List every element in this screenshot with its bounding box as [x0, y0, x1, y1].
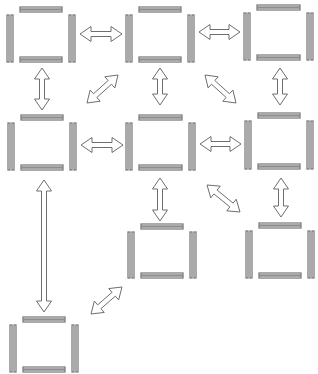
double-arrow-icon: [153, 178, 168, 221]
node-top-edge: [21, 118, 63, 120]
double-arrow-icon: [207, 185, 240, 212]
node-n8: [246, 223, 314, 278]
double-arrow-icon: [205, 75, 236, 103]
node-bottom-edge: [259, 276, 301, 278]
node-n7: [128, 224, 196, 278]
node-left-edge: [250, 231, 252, 278]
double-arrow-icon: [87, 75, 118, 103]
node-left-edge: [12, 123, 14, 170]
node-bottom-edge: [139, 57, 181, 59]
node-n3: [244, 5, 313, 60]
node-n5: [126, 115, 195, 170]
node-top-edge: [139, 10, 181, 12]
node-left-edge: [249, 121, 251, 169]
node-n1: [7, 7, 75, 62]
double-arrow-icon: [35, 68, 50, 110]
node-top-edge: [23, 320, 65, 322]
node-n9: [10, 317, 78, 372]
double-arrow-icon: [91, 287, 122, 314]
node-left-edge: [126, 123, 128, 170]
node-bottom-edge: [257, 55, 300, 57]
node-bottom-edge: [20, 60, 62, 62]
node-top-edge: [21, 115, 63, 117]
node-top-edge: [257, 8, 300, 10]
node-bottom-edge: [23, 367, 65, 369]
node-left-edge: [14, 325, 16, 372]
node-left-edge: [245, 121, 247, 169]
node-top-edge: [259, 226, 301, 228]
node-right-edge: [69, 15, 71, 62]
node-top-edge: [23, 317, 65, 319]
node-left-edge: [7, 15, 9, 62]
node-top-edge: [20, 7, 62, 9]
double-arrow-icon: [80, 27, 122, 42]
node-bottom-edge: [259, 273, 301, 275]
node-bottom-edge: [141, 273, 183, 275]
node-left-edge: [128, 232, 130, 278]
node-right-edge: [307, 121, 309, 169]
node-top-edge: [258, 116, 300, 118]
node-left-edge: [8, 123, 10, 170]
node-left-edge: [130, 15, 132, 62]
node-top-edge: [259, 223, 301, 225]
node-left-edge: [11, 15, 13, 62]
node-right-edge: [193, 123, 195, 170]
node-right-edge: [188, 15, 190, 62]
double-arrow-icon: [274, 178, 289, 217]
node-top-edge: [141, 227, 183, 229]
node-bottom-edge: [20, 57, 62, 59]
network-diagram: [0, 0, 318, 374]
node-right-edge: [312, 231, 314, 278]
double-arrow-icon: [153, 68, 168, 105]
node-right-edge: [72, 325, 74, 372]
node-left-edge: [246, 231, 248, 278]
node-right-edge: [76, 325, 78, 372]
node-left-edge: [244, 13, 246, 60]
double-arrow-icon: [199, 25, 240, 40]
node-right-edge: [308, 231, 310, 278]
node-bottom-edge: [23, 370, 65, 372]
node-right-edge: [190, 232, 192, 278]
node-bottom-edge: [139, 168, 182, 170]
double-arrow-icon: [37, 180, 52, 312]
node-right-edge: [194, 232, 196, 278]
node-right-edge: [189, 123, 191, 170]
node-right-edge: [192, 15, 194, 62]
node-left-edge: [10, 325, 12, 372]
node-bottom-edge: [139, 165, 182, 167]
node-right-edge: [311, 13, 313, 60]
double-arrow-icon: [200, 137, 241, 152]
node-bottom-edge: [257, 58, 300, 60]
node-right-edge: [73, 15, 75, 62]
node-n4: [8, 115, 76, 170]
node-n2: [126, 7, 194, 62]
node-bottom-edge: [141, 276, 183, 278]
node-n6: [245, 113, 313, 169]
node-top-edge: [139, 7, 181, 9]
node-top-edge: [258, 113, 300, 115]
node-left-edge: [126, 15, 128, 62]
node-bottom-edge: [21, 168, 63, 170]
double-arrow-icon: [273, 68, 288, 105]
node-bottom-edge: [258, 164, 300, 166]
node-top-edge: [141, 224, 183, 226]
node-left-edge: [130, 123, 132, 170]
node-bottom-edge: [139, 60, 181, 62]
node-right-edge: [70, 123, 72, 170]
node-right-edge: [311, 121, 313, 169]
node-bottom-edge: [258, 167, 300, 169]
node-top-edge: [257, 5, 300, 7]
node-bottom-edge: [21, 165, 63, 167]
node-left-edge: [132, 232, 134, 278]
node-top-edge: [139, 118, 182, 120]
node-right-edge: [307, 13, 309, 60]
node-left-edge: [248, 13, 250, 60]
node-top-edge: [20, 10, 62, 12]
node-top-edge: [139, 115, 182, 117]
node-right-edge: [74, 123, 76, 170]
double-arrow-icon: [81, 138, 123, 153]
